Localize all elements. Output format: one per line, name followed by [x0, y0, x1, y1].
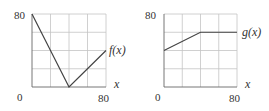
figure: 80 0 80 x f(x) 80 0 80 x g(x) [0, 0, 269, 111]
x-tick-80: 80 [229, 92, 241, 104]
x-axis-label: x [113, 77, 120, 91]
x-tick-0: 0 [17, 91, 23, 103]
x-axis-label: x [244, 77, 251, 91]
grid-g [164, 14, 237, 87]
y-tick-80: 80 [145, 9, 157, 21]
grid-f [32, 14, 106, 87]
x-tick-80: 80 [98, 92, 110, 104]
y-tick-80: 80 [14, 9, 26, 21]
chart-g: 80 0 80 x g(x) [145, 9, 261, 104]
f-label: f(x) [109, 43, 126, 57]
chart-f: 80 0 80 x f(x) [14, 9, 126, 104]
g-label: g(x) [242, 25, 261, 39]
x-tick-0: 0 [155, 91, 161, 103]
